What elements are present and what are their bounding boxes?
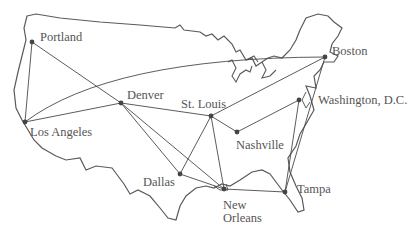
city-label-tampa: Tampa [297,183,331,196]
city-label-portland: Portland [40,31,82,44]
route-edge [211,116,237,132]
city-label-st-louis: St. Louis [181,98,226,111]
city-label-boston: Boston [332,45,367,58]
route-edge [211,116,224,189]
city-node [119,101,124,106]
route-edge [121,103,180,174]
city-node [23,120,28,125]
route-edge [25,57,325,122]
city-label-denver: Denver [127,89,164,102]
route-edge [285,100,299,192]
route-edge [285,57,325,192]
city-nodes [23,40,328,195]
route-edge [237,100,299,132]
city-label-washington: Washington, D.C. [318,94,407,107]
us-route-map: Portland Los Angeles Denver St. Louis Na… [0,0,417,231]
city-node [178,172,183,177]
city-label-nashville: Nashville [236,139,284,152]
city-node [30,40,35,45]
us-outline [14,14,342,220]
city-label-new-orleans-2: Orleans [223,212,262,225]
city-label-new-orleans-1: New [223,199,247,212]
city-node [209,114,214,119]
city-node [283,190,288,195]
route-edge [25,42,32,122]
route-edges [25,42,325,192]
city-node [297,98,302,103]
route-edge [224,189,285,192]
city-label-dallas: Dallas [143,176,175,189]
city-label-los-angeles: Los Angeles [30,126,92,139]
city-node [222,187,227,192]
city-node [323,55,328,60]
city-node [235,130,240,135]
great-lakes [228,56,276,82]
